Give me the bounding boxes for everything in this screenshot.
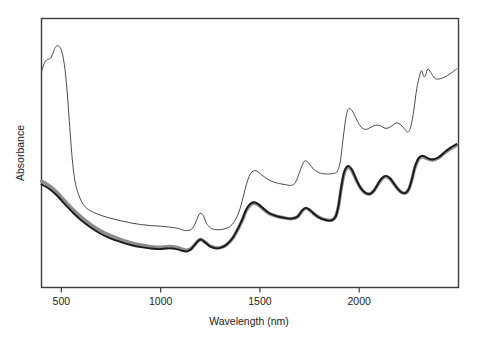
- x-tick-label: 1000: [149, 295, 173, 307]
- spectrum-chart: 500100015002000 Wavelength (nm) Absorban…: [0, 0, 482, 341]
- x-tick-label: 500: [53, 295, 71, 307]
- y-axis-title: Absorbance: [14, 125, 26, 181]
- x-tick-label: 2000: [348, 295, 372, 307]
- x-axis-title: Wavelength (nm): [209, 315, 289, 327]
- figure-container: 500100015002000 Wavelength (nm) Absorban…: [0, 0, 482, 341]
- chart-background: [0, 0, 482, 341]
- x-tick-label: 1500: [248, 295, 272, 307]
